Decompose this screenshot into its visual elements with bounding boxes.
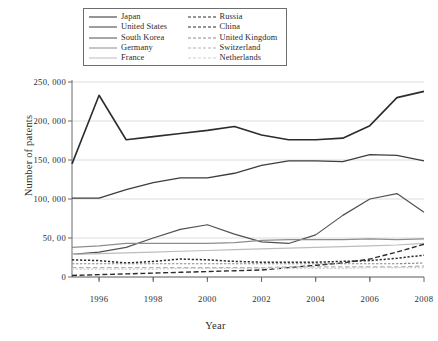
- legend-item-japan[interactable]: Japan: [89, 12, 182, 22]
- series-line-japan: [72, 91, 424, 164]
- legend-label: Germany: [121, 43, 153, 53]
- chart-legend: JapanUnited StatesSouth KoreaGermanyFran…: [83, 8, 287, 66]
- legend-item-south-korea[interactable]: South Korea: [89, 32, 182, 42]
- legend-column-right: RussiaChinaUnited KingdomSwitzerlandNeth…: [188, 12, 282, 63]
- legend-item-france[interactable]: France: [89, 53, 182, 63]
- legend-item-switzerland[interactable]: Switzerland: [188, 43, 282, 53]
- series-line-switzerland: [72, 266, 424, 268]
- legend-label: France: [121, 53, 144, 63]
- legend-column-left: JapanUnited StatesSouth KoreaGermanyFran…: [89, 12, 182, 63]
- legend-label: Russia: [220, 12, 243, 22]
- series-line-france: [72, 243, 424, 254]
- axes: [68, 80, 424, 282]
- legend-item-china[interactable]: China: [188, 22, 282, 32]
- legend-label: Switzerland: [220, 43, 261, 53]
- legend-item-united-kingdom[interactable]: United Kingdom: [188, 32, 282, 42]
- legend-label: United Kingdom: [220, 33, 278, 43]
- legend-label: China: [220, 22, 241, 32]
- legend-item-netherlands[interactable]: Netherlands: [188, 53, 282, 63]
- data-series: [72, 91, 424, 275]
- legend-label: South Korea: [121, 33, 164, 43]
- legend-label: Netherlands: [220, 53, 262, 63]
- series-line-united-states: [72, 155, 424, 199]
- legend-label: Japan: [121, 12, 141, 22]
- legend-item-germany[interactable]: Germany: [89, 43, 182, 53]
- legend-item-russia[interactable]: Russia: [188, 12, 282, 22]
- legend-label: United States: [121, 22, 167, 32]
- legend-item-united-states[interactable]: United States: [89, 22, 182, 32]
